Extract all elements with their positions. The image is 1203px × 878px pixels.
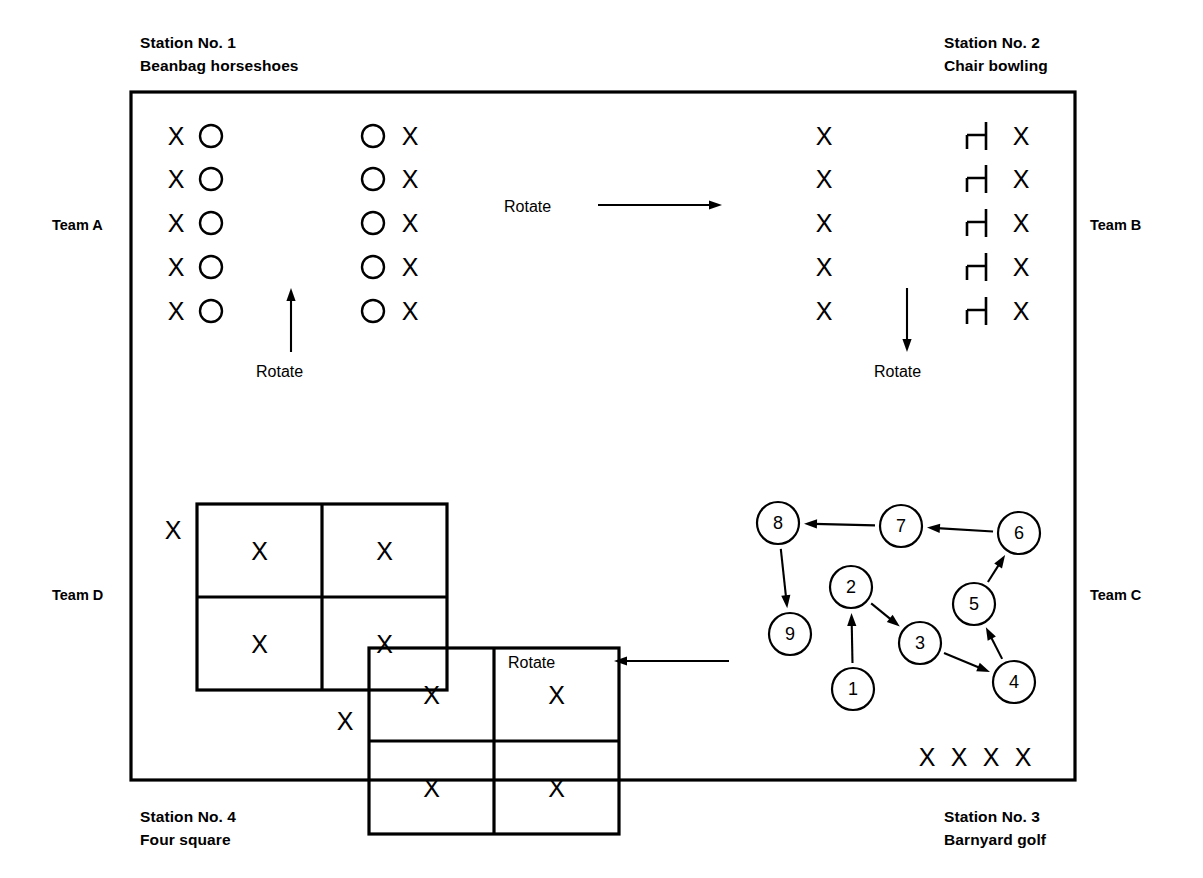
- golf-hole-3: 3: [899, 622, 941, 664]
- chair-bowling-row: XX: [816, 122, 1030, 150]
- path-arrow-1-to-2-head: [847, 613, 856, 626]
- player-x-mark: X: [168, 253, 185, 281]
- path-arrow-2-to-3-shaft: [871, 603, 892, 620]
- hole-number: 2: [846, 577, 856, 597]
- rotate-left-arrow: [286, 288, 295, 352]
- rotation-diagram: Station No. 1 Beanbag horseshoes Station…: [0, 0, 1203, 878]
- player-x-mark: X: [816, 297, 833, 325]
- path-arrow-4-to-5: [986, 627, 1002, 659]
- player-x-mark: X: [402, 297, 419, 325]
- player-x-mark: X: [1013, 253, 1030, 281]
- station-4-number: Station No. 4: [140, 808, 236, 825]
- player-x-mark: X: [402, 253, 419, 281]
- target-o-mark: [362, 212, 384, 234]
- path-arrow-5-to-6-shaft: [988, 563, 1000, 582]
- four-square-player-x: X: [376, 630, 393, 658]
- beanbag-row: XX: [168, 253, 419, 281]
- path-arrow-3-to-4-head: [976, 663, 990, 672]
- station-2-number: Station No. 2: [944, 34, 1040, 51]
- player-x-mark: X: [1013, 209, 1030, 237]
- golf-hole-5: 5: [953, 583, 995, 625]
- golf-hole-6: 6: [998, 512, 1040, 554]
- chair-bowling-row: XX: [816, 209, 1030, 237]
- beanbag-row: XX: [168, 297, 419, 325]
- rotate-bottom-label: Rotate: [508, 654, 555, 671]
- target-o-mark: [362, 168, 384, 190]
- golf-hole-9: 9: [769, 613, 811, 655]
- player-x-mark: X: [168, 122, 185, 150]
- station-2-activity: Chair bowling: [944, 57, 1048, 74]
- four-square-player-x: X: [376, 537, 393, 565]
- player-x-mark: X: [168, 297, 185, 325]
- four-square-player-x: X: [548, 774, 565, 802]
- path-arrow-8-to-9-head: [781, 595, 790, 608]
- target-o-mark: [200, 125, 222, 147]
- path-arrow-8-to-9: [781, 549, 791, 608]
- path-arrow-5-to-6: [988, 555, 1005, 582]
- player-x-mark: X: [402, 122, 419, 150]
- golf-hole-1: 1: [832, 668, 874, 710]
- chair-icon: [967, 253, 986, 281]
- chair-icon: [967, 122, 986, 150]
- rotate-top: Rotate: [504, 198, 722, 215]
- rotate-bottom-arrow: [614, 656, 729, 665]
- chair-icon: [967, 297, 986, 325]
- player-x-mark: X: [816, 122, 833, 150]
- four-square-player-x: X: [548, 681, 565, 709]
- rotate-right-arrow-head: [902, 339, 911, 352]
- beanbag-row: XX: [168, 209, 419, 237]
- golf-hole-7: 7: [880, 505, 922, 547]
- path-arrow-7-to-8-head: [804, 519, 817, 528]
- hole-number: 1: [848, 679, 858, 699]
- path-arrow-1-to-2: [847, 613, 856, 663]
- player-x-mark: X: [1013, 165, 1030, 193]
- team-label-team-c: Team C: [1090, 587, 1142, 603]
- team-label-team-a: Team A: [52, 217, 103, 233]
- rotate-top-arrow-head: [709, 200, 722, 209]
- four-square-player-x: X: [251, 630, 268, 658]
- waiting-player-x: X: [919, 743, 936, 771]
- path-arrow-5-to-6-head: [994, 555, 1005, 568]
- barnyard-waiting-players: XXXX: [919, 743, 1032, 771]
- rotate-right-label: Rotate: [874, 363, 921, 380]
- station-4-activity: Four square: [140, 831, 231, 848]
- team-labels: Team A Team B Team C Team D: [52, 217, 1142, 603]
- player-x-mark: X: [402, 209, 419, 237]
- chair-bowling-row: XX: [816, 253, 1030, 281]
- waiting-player-x: X: [983, 743, 1000, 771]
- target-o-mark: [362, 300, 384, 322]
- rotate-top-arrow: [598, 200, 722, 209]
- target-o-mark: [362, 256, 384, 278]
- chair-icon: [967, 209, 986, 237]
- chair-icon: [967, 165, 986, 193]
- golf-hole-8: 8: [757, 502, 799, 544]
- four-square-player-x: X: [423, 681, 440, 709]
- path-arrow-6-to-7: [927, 524, 993, 533]
- path-arrow-4-to-5-head: [986, 627, 996, 641]
- hole-number: 9: [785, 624, 795, 644]
- path-arrow-7-to-8-shaft: [814, 524, 875, 525]
- team-label-team-d: Team D: [52, 587, 103, 603]
- rotate-right-arrow: [902, 288, 911, 352]
- rotate-top-label: Rotate: [504, 198, 551, 215]
- path-arrow-8-to-9-shaft: [781, 549, 786, 598]
- player-x-mark: X: [168, 209, 185, 237]
- waiting-player-x: X: [337, 707, 354, 735]
- station-label-station-2: Station No. 2 Chair bowling: [944, 34, 1048, 74]
- hole-number: 6: [1014, 523, 1024, 543]
- player-x-mark: X: [168, 165, 185, 193]
- path-arrow-1-to-2-shaft: [852, 623, 853, 663]
- golf-hole-4: 4: [993, 661, 1035, 703]
- target-o-mark: [200, 300, 222, 322]
- station-3-number: Station No. 3: [944, 808, 1040, 825]
- player-x-mark: X: [816, 209, 833, 237]
- path-arrow-7-to-8: [804, 519, 875, 528]
- waiting-player-x: X: [1015, 743, 1032, 771]
- player-x-mark: X: [816, 165, 833, 193]
- player-x-mark: X: [1013, 297, 1030, 325]
- hole-number: 7: [896, 516, 906, 536]
- chair-bowling-row: XX: [816, 165, 1030, 193]
- path-arrow-6-to-7-shaft: [937, 528, 993, 531]
- diagram-root: Station No. 1 Beanbag horseshoes Station…: [0, 0, 1203, 878]
- waiting-player-x: X: [951, 743, 968, 771]
